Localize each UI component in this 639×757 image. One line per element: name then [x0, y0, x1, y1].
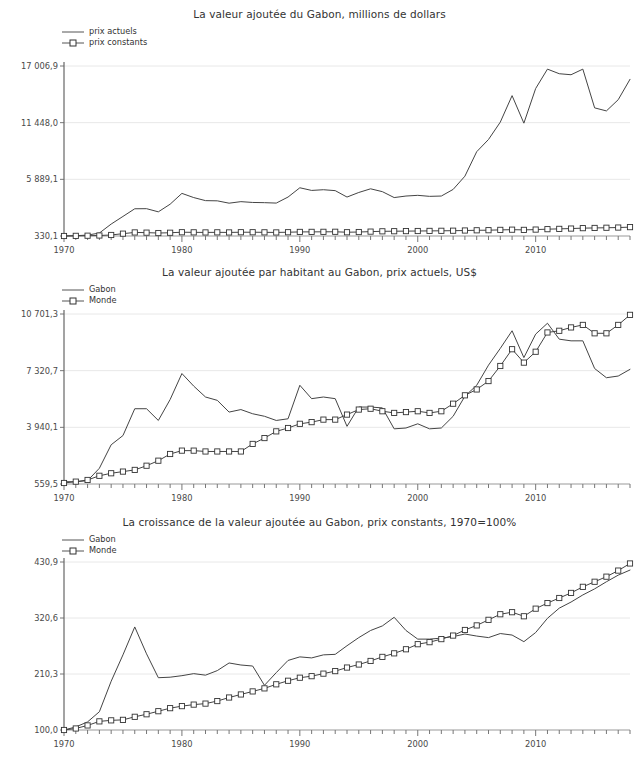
series-line-gabon	[64, 323, 630, 482]
x-axis-tick-label: 2000	[407, 245, 428, 255]
data-point-marker	[215, 230, 220, 235]
x-axis-tick-label: 1970	[53, 245, 74, 255]
x-axis-tick-label: 1990	[289, 245, 310, 255]
data-point-marker	[321, 229, 326, 234]
y-axis-tick-label: 7 320,7	[26, 366, 58, 376]
data-point-marker	[262, 686, 267, 691]
chart-plot-area: 430,9320,6210,3100,019701980199020002010	[0, 508, 639, 757]
data-point-marker	[533, 349, 538, 354]
data-point-marker	[73, 479, 78, 484]
data-point-marker	[168, 451, 173, 456]
data-point-marker	[356, 407, 361, 412]
data-point-marker	[486, 378, 491, 383]
data-point-marker	[215, 449, 220, 454]
data-point-marker	[392, 410, 397, 415]
data-point-marker	[451, 401, 456, 406]
data-point-marker	[61, 727, 66, 732]
data-point-marker	[474, 228, 479, 233]
data-point-marker	[226, 230, 231, 235]
data-point-marker	[392, 229, 397, 234]
data-point-marker	[380, 409, 385, 414]
data-point-marker	[97, 233, 102, 238]
data-point-marker	[545, 227, 550, 232]
data-point-marker	[509, 610, 514, 615]
data-point-marker	[144, 712, 149, 717]
data-point-marker	[120, 231, 125, 236]
y-axis-tick-label: 430,9	[34, 557, 58, 567]
data-point-marker	[627, 225, 632, 230]
series-line-prix-actuels	[64, 69, 630, 236]
data-point-marker	[545, 600, 550, 605]
x-axis-tick-label: 1980	[171, 739, 192, 749]
y-axis-tick-label: 3 940,1	[26, 422, 58, 432]
y-axis-tick-label: 559,5	[34, 479, 58, 489]
data-point-marker	[168, 706, 173, 711]
data-point-marker	[109, 471, 114, 476]
chart-value-added-gabon: La valeur ajoutée du Gabon, millions de …	[0, 0, 639, 258]
x-axis-tick-label: 2010	[525, 493, 546, 503]
data-point-marker	[191, 448, 196, 453]
data-point-marker	[368, 406, 373, 411]
data-point-marker	[144, 463, 149, 468]
y-axis-tick-label: 11 448,0	[21, 118, 58, 128]
data-point-marker	[191, 702, 196, 707]
data-point-marker	[592, 579, 597, 584]
data-point-marker	[462, 393, 467, 398]
data-point-marker	[285, 425, 290, 430]
data-point-marker	[238, 230, 243, 235]
data-point-marker	[73, 233, 78, 238]
data-point-marker	[226, 695, 231, 700]
data-point-marker	[333, 669, 338, 674]
data-point-marker	[274, 429, 279, 434]
data-point-marker	[203, 449, 208, 454]
data-point-marker	[474, 623, 479, 628]
x-axis-tick-label: 1990	[289, 493, 310, 503]
data-point-marker	[580, 584, 585, 589]
data-point-marker	[156, 230, 161, 235]
data-point-marker	[250, 441, 255, 446]
data-point-marker	[521, 360, 526, 365]
data-point-marker	[333, 229, 338, 234]
x-axis-tick-label: 1970	[53, 739, 74, 749]
data-point-marker	[533, 606, 538, 611]
data-point-marker	[109, 232, 114, 237]
data-point-marker	[109, 718, 114, 723]
data-point-marker	[309, 229, 314, 234]
data-point-marker	[262, 435, 267, 440]
data-point-marker	[509, 347, 514, 352]
data-point-marker	[498, 363, 503, 368]
data-point-marker	[604, 331, 609, 336]
data-point-marker	[356, 229, 361, 234]
data-point-marker	[344, 665, 349, 670]
data-point-marker	[132, 230, 137, 235]
data-point-marker	[144, 230, 149, 235]
data-point-marker	[403, 409, 408, 414]
data-point-marker	[203, 701, 208, 706]
data-point-marker	[309, 674, 314, 679]
data-point-marker	[627, 561, 632, 566]
data-point-marker	[498, 612, 503, 617]
chart-value-added-growth: La croissance de la valeur ajoutée au Ga…	[0, 508, 639, 757]
y-axis-tick-label: 100,0	[34, 725, 58, 735]
data-point-marker	[215, 698, 220, 703]
data-point-marker	[120, 717, 125, 722]
data-point-marker	[521, 227, 526, 232]
data-point-marker	[415, 642, 420, 647]
data-point-marker	[179, 448, 184, 453]
x-axis-tick-label: 1980	[171, 493, 192, 503]
data-point-marker	[427, 228, 432, 233]
data-point-marker	[403, 229, 408, 234]
data-point-marker	[344, 230, 349, 235]
data-point-marker	[557, 328, 562, 333]
data-point-marker	[462, 228, 467, 233]
data-point-marker	[97, 719, 102, 724]
y-axis-tick-label: 210,3	[34, 669, 58, 679]
data-point-marker	[486, 228, 491, 233]
data-point-marker	[344, 412, 349, 417]
data-point-marker	[85, 477, 90, 482]
chart-plot-area: 10 701,37 320,73 940,1559,51970198019902…	[0, 258, 639, 508]
data-point-marker	[521, 614, 526, 619]
data-point-marker	[73, 726, 78, 731]
data-point-marker	[486, 617, 491, 622]
y-axis-tick-label: 17 006,9	[21, 61, 58, 71]
